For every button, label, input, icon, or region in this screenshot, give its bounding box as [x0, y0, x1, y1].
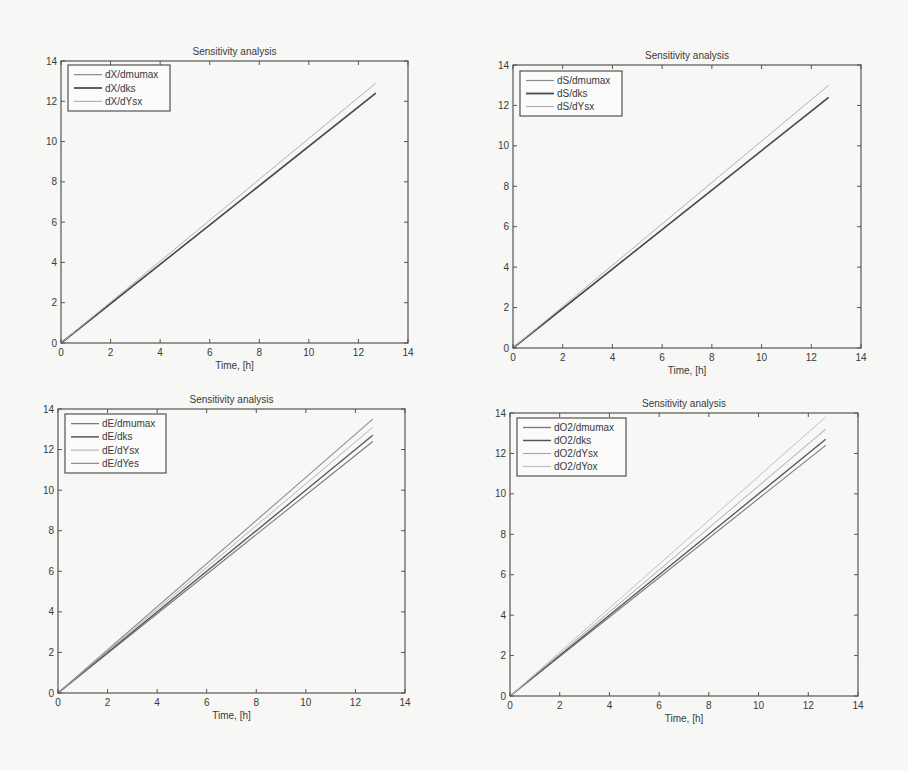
- legend-label: dO2/dYsx: [554, 448, 598, 459]
- x-tick-label: 2: [557, 700, 563, 711]
- x-tick-label: 8: [706, 700, 712, 711]
- legend-label: dO2/dks: [554, 435, 591, 446]
- y-tick-label: 12: [495, 448, 507, 459]
- series-line: [510, 439, 826, 696]
- legend-label: dO2/dYox: [554, 461, 598, 472]
- y-tick-label: 2: [500, 650, 506, 661]
- legend: dO2/dmumaxdO2/dksdO2/dYsxdO2/dYox: [517, 418, 626, 476]
- chart-title: Sensitivity analysis: [642, 398, 726, 409]
- x-tick-label: 12: [803, 700, 815, 711]
- y-tick-label: 6: [500, 569, 506, 580]
- series-line: [510, 445, 826, 696]
- x-tick-label: 6: [656, 700, 662, 711]
- y-tick-label: 0: [500, 691, 506, 702]
- legend-label: dO2/dmumax: [554, 422, 614, 433]
- chart-svg: Sensitivity analysis 0246810121402468101…: [0, 0, 908, 770]
- x-tick-label: 14: [852, 700, 864, 711]
- y-tick-label: 8: [500, 529, 506, 540]
- x-tick-label: 4: [607, 700, 613, 711]
- x-axis-label: Time, [h]: [665, 713, 704, 724]
- x-tick-label: 10: [753, 700, 765, 711]
- x-tick-label: 0: [507, 700, 513, 711]
- y-tick-label: 14: [495, 408, 507, 419]
- y-tick-label: 10: [495, 488, 507, 499]
- y-tick-label: 4: [500, 610, 506, 621]
